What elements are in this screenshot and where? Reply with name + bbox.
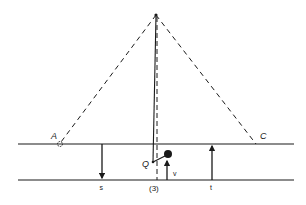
segment-Q-to-dot (153, 156, 165, 162)
label-A: A (50, 131, 57, 141)
dashed-line-apex-to-C (156, 15, 256, 144)
label-t: t (210, 184, 212, 191)
diagram-canvas: A C Q s t v (3) (0, 0, 306, 205)
apex-point (154, 13, 157, 16)
dashed-line-apex-to-A (61, 15, 156, 142)
label-s: s (100, 184, 104, 191)
q-point (152, 161, 155, 164)
label-v: v (173, 170, 177, 177)
solid-line-apex-to-Q (153, 15, 156, 162)
label-C: C (260, 131, 267, 141)
figure-number: (3) (149, 184, 159, 193)
label-Q: Q (142, 159, 149, 169)
particle-dot (164, 150, 172, 158)
